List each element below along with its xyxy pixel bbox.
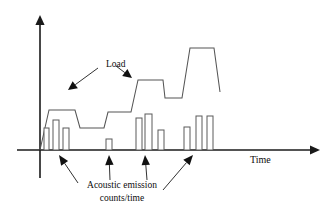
- acoustic-emission-bar: [145, 114, 152, 150]
- acoustic-emission-bar: [53, 120, 59, 150]
- acoustic-emission-bar: [63, 128, 69, 150]
- x-axis-label: Time: [250, 154, 271, 165]
- acoustic-emission-load-chart: Time Load Acoustic emission counts/time: [0, 0, 333, 213]
- acoustic-emission-bar: [106, 139, 112, 150]
- acoustic-emission-bar: [196, 116, 202, 150]
- acoustic-emission-bar: [158, 130, 164, 150]
- chart-background: [0, 0, 333, 213]
- acoustic-emission-caption-line2: counts/time: [100, 193, 144, 203]
- acoustic-emission-pointer-2-line: [109, 165, 110, 180]
- acoustic-emission-bar: [44, 128, 49, 150]
- acoustic-emission-bar: [207, 116, 213, 150]
- load-label: Load: [106, 59, 126, 69]
- acoustic-emission-caption-line1: Acoustic emission: [87, 180, 157, 190]
- acoustic-emission-bar: [184, 127, 190, 150]
- figure-container: Time Load Acoustic emission counts/time: [0, 0, 333, 213]
- acoustic-emission-bar: [136, 118, 142, 150]
